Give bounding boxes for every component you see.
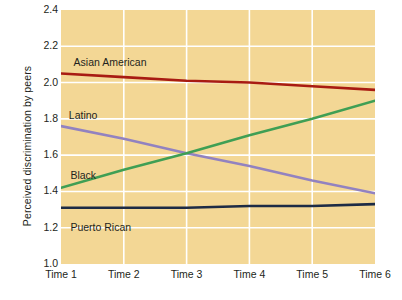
series-label: Asian American — [74, 57, 147, 68]
series-line — [61, 204, 375, 208]
x-axis-tick-label: Time 2 — [94, 268, 154, 280]
series-line — [61, 74, 375, 90]
series-line — [61, 101, 375, 188]
x-axis-tick-label: Time 3 — [157, 268, 217, 280]
x-axis-tick-label: Time 4 — [219, 268, 279, 280]
series-label: Black — [70, 170, 96, 181]
x-axis-tick-label: Time 5 — [282, 268, 342, 280]
y-axis-tick-label: 1.0 — [32, 258, 58, 269]
y-axis-tick-label: 1.6 — [32, 149, 58, 160]
x-axis-tick-label: Time 6 — [345, 268, 402, 280]
x-axis-tick-label: Time 1 — [31, 268, 91, 280]
y-axis-tick-labels: 2.42.22.01.81.61.41.21.0 — [30, 0, 58, 300]
y-axis-tick-label: 1.8 — [32, 113, 58, 124]
y-axis-tick-label: 2.2 — [32, 40, 58, 51]
y-axis-tick-label: 1.4 — [32, 185, 58, 196]
y-axis-tick-label: 1.2 — [32, 222, 58, 233]
series-label: Puerto Rican — [70, 222, 131, 233]
series-label: Latino — [69, 110, 98, 121]
series-line — [61, 126, 375, 193]
x-axis-tick-labels: Time 1Time 2Time 3Time 4Time 5Time 6 — [61, 268, 375, 288]
y-axis-tick-label: 2.0 — [32, 77, 58, 88]
chart-figure: Perceived discrimination by peers 2.42.2… — [0, 0, 402, 300]
y-axis-tick-label: 2.4 — [32, 4, 58, 15]
plot-area: Asian AmericanLatinoBlackPuerto Rican — [61, 10, 375, 264]
